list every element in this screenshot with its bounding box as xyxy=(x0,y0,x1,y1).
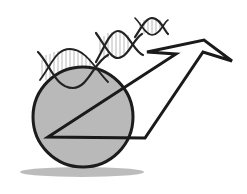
growth-dna-illustration xyxy=(0,0,247,194)
circle-icon xyxy=(33,67,133,167)
shadow-ellipse xyxy=(20,167,144,177)
